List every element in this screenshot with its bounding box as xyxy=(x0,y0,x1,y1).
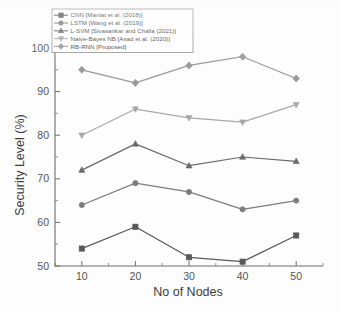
y-axis-title: Security Level (%) xyxy=(13,114,27,215)
legend-marker-circle-icon xyxy=(59,21,63,25)
x-tick-label: 10 xyxy=(76,270,88,282)
data-series xyxy=(79,53,300,86)
x-tick-label: 50 xyxy=(290,270,302,282)
data-point-marker xyxy=(132,141,138,146)
data-point-marker xyxy=(240,154,246,159)
data-point-marker xyxy=(79,246,84,251)
x-tick-labels: 1020304050 xyxy=(76,270,302,282)
chart-legend: CNN [Maniat et al. (2018)]LSTM [Wang et … xyxy=(52,9,193,53)
legend-label: L-SVM [Sivasankar and Challa (2021)] xyxy=(71,27,177,34)
data-point-marker xyxy=(133,224,138,229)
legend-label: Naive-Bayes NB [Asad et al. (2020)] xyxy=(71,35,171,42)
data-point-marker xyxy=(79,133,85,138)
data-point-marker xyxy=(240,207,245,212)
y-tick-label: 80 xyxy=(37,129,49,141)
x-axis-title: No of Nodes xyxy=(153,285,222,299)
data-point-marker xyxy=(239,53,246,60)
x-tick-label: 20 xyxy=(130,270,142,282)
y-tick-label: 70 xyxy=(37,172,49,184)
data-point-marker xyxy=(133,181,138,186)
y-tick-label: 50 xyxy=(37,260,49,272)
x-tick-label: 40 xyxy=(237,270,249,282)
data-point-marker xyxy=(79,66,86,73)
legend-marker-square-icon xyxy=(59,13,63,17)
data-series xyxy=(79,224,299,264)
data-series-layer xyxy=(79,53,300,264)
chart-figure: 1020304050 5060708090100 No of Nodes Sec… xyxy=(0,0,339,310)
y-tick-labels: 5060708090100 xyxy=(31,42,49,272)
legend-label: CNN [Maniat et al. (2018)] xyxy=(71,11,143,18)
legend-item[interactable]: Naive-Bayes NB [Asad et al. (2020)] xyxy=(54,35,170,42)
axis-layer xyxy=(55,46,323,266)
line-chart: 1020304050 5060708090100 No of Nodes Sec… xyxy=(0,0,339,310)
data-point-marker xyxy=(240,259,245,264)
data-point-marker xyxy=(186,255,191,260)
y-tick-label: 100 xyxy=(31,42,49,54)
data-point-marker xyxy=(132,79,139,86)
x-tick-label: 30 xyxy=(183,270,195,282)
data-point-marker xyxy=(240,120,246,125)
data-series xyxy=(79,181,299,212)
data-series xyxy=(79,141,299,173)
data-point-marker xyxy=(79,202,84,207)
data-point-marker xyxy=(293,75,300,82)
data-point-marker xyxy=(186,62,193,69)
data-point-marker xyxy=(186,189,191,194)
legend-label: LSTM [Wang et al. (2019)] xyxy=(71,19,144,26)
data-point-marker xyxy=(294,233,299,238)
y-tick-label: 90 xyxy=(37,85,49,97)
legend-label: RB-RNN [Proposed] xyxy=(71,43,127,50)
y-tick-label: 60 xyxy=(37,216,49,228)
data-point-marker xyxy=(294,198,299,203)
legend-item[interactable]: L-SVM [Sivasankar and Challa (2021)] xyxy=(54,27,176,34)
data-series xyxy=(79,102,299,138)
